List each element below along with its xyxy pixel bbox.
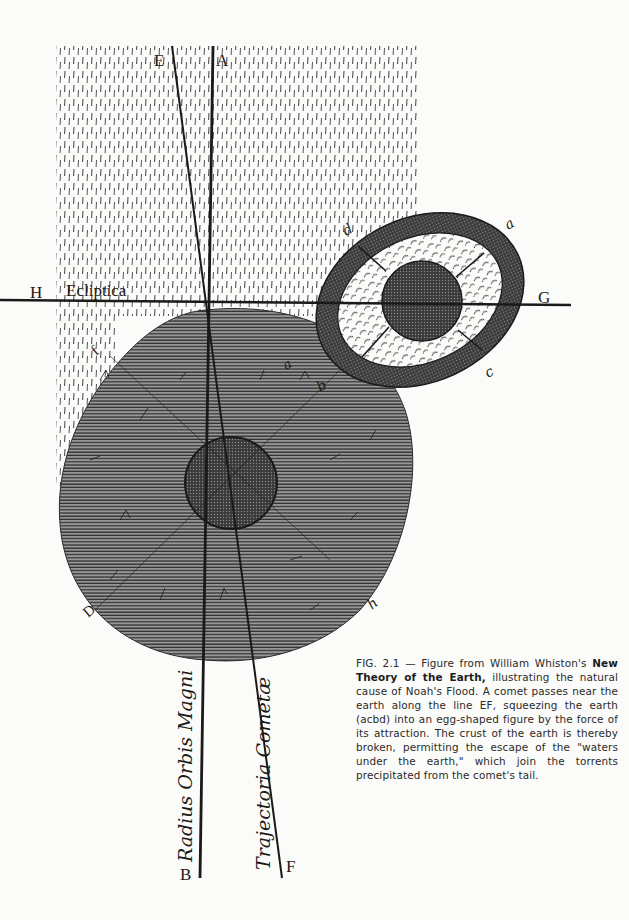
label-G: G — [538, 288, 550, 307]
label-radius-orbis-magni: Radius Orbis Magni — [174, 670, 196, 863]
label-ecliptica: Ecliptica — [66, 281, 127, 300]
label-c: c — [482, 363, 497, 381]
label-H: H — [30, 283, 42, 302]
comet-nucleus — [185, 437, 277, 529]
label-trajectoria-cometae: Trajectoria Cometæ — [252, 677, 274, 870]
caption-body: illustrating the natural cause of Noah's… — [356, 671, 618, 781]
caption-intro: — Figure from William Whiston's — [400, 657, 593, 669]
label-E: E — [154, 51, 164, 70]
label-F: F — [286, 857, 295, 876]
label-h: h — [364, 594, 381, 612]
earth-core — [382, 261, 462, 341]
caption-fig-number: FIG. 2.1 — [356, 657, 400, 669]
whiston-flood-diagram: E A H Ecliptica G d a c b a f D h B F Ra… — [0, 0, 629, 920]
figure-caption: FIG. 2.1 — Figure from William Whiston's… — [356, 656, 618, 782]
label-a-outer: a — [502, 215, 517, 233]
label-B: B — [180, 865, 191, 884]
label-A: A — [216, 51, 229, 70]
